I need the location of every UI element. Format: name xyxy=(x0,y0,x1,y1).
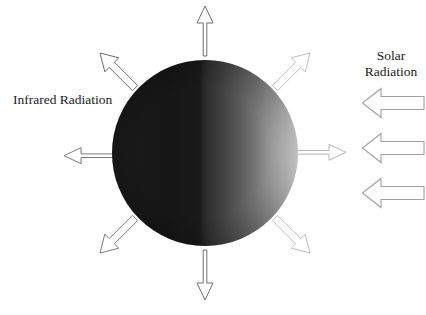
solar-radiation-label: Solar Radiation xyxy=(358,48,424,80)
radiation-balance-figure: Infrared Radiation Solar Radiation xyxy=(0,0,426,315)
solar-radiation-label-line1: Solar xyxy=(358,48,424,64)
solar-arrow-3 xyxy=(363,179,425,208)
infrared-arrow-northeast xyxy=(272,53,310,91)
solar-arrow-2 xyxy=(363,134,425,163)
infrared-arrow-north xyxy=(197,6,213,56)
infrared-arrow-southwest xyxy=(100,215,138,253)
infrared-radiation-label: Infrared Radiation xyxy=(13,92,112,107)
infrared-arrow-west xyxy=(64,148,114,164)
solar-arrow-1 xyxy=(363,89,425,118)
infrared-arrow-southeast xyxy=(272,215,310,253)
planet-sphere xyxy=(112,60,298,246)
solar-radiation-label-line2: Radiation xyxy=(358,64,424,80)
infrared-arrow-east xyxy=(296,144,346,160)
infrared-arrow-northwest xyxy=(100,53,138,91)
infrared-arrow-south xyxy=(197,250,213,300)
